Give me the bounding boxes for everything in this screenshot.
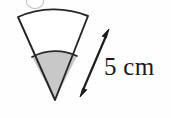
shaded-inner-sector: [32, 51, 77, 100]
dimension-label: 5 cm: [104, 54, 155, 79]
dimension-arrowhead-lower: [80, 88, 87, 97]
dimension-arrowhead-upper: [102, 29, 109, 38]
geometry-figure: 5 cm: [0, 0, 171, 118]
dimension-arrow-line: [83, 36, 106, 90]
